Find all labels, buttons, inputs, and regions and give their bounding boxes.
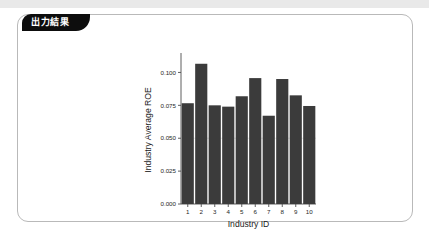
bar-chart: 0.0000.0250.0500.0750.10012345678910Indu… bbox=[138, 45, 338, 230]
x-axis-tick-label: 9 bbox=[294, 208, 298, 215]
x-axis-tick-label: 1 bbox=[186, 208, 190, 215]
y-axis-tick-label: 0.075 bbox=[161, 102, 177, 109]
bar bbox=[263, 116, 275, 204]
top-gray-band bbox=[0, 0, 429, 8]
bar bbox=[236, 96, 248, 204]
x-axis-title: Industry ID bbox=[228, 219, 270, 229]
bar bbox=[303, 106, 315, 204]
panel-tab-output-result[interactable]: 出力結果 bbox=[22, 14, 90, 31]
chart-canvas: 0.0000.0250.0500.0750.10012345678910Indu… bbox=[138, 45, 338, 230]
x-axis-tick-label: 4 bbox=[227, 208, 231, 215]
y-axis-title: Industry Average ROE bbox=[143, 87, 153, 173]
y-axis-tick-label: 0.050 bbox=[161, 134, 177, 141]
bar bbox=[182, 103, 194, 204]
output-result-card: 0.0000.0250.0500.0750.10012345678910Indu… bbox=[17, 14, 413, 222]
bar bbox=[290, 95, 302, 204]
bar bbox=[249, 78, 261, 204]
y-axis-tick-label: 0.000 bbox=[161, 200, 177, 207]
screenshot-root: 0.0000.0250.0500.0750.10012345678910Indu… bbox=[0, 0, 429, 235]
x-axis-tick-label: 2 bbox=[200, 208, 204, 215]
y-axis-tick-label: 0.100 bbox=[161, 69, 177, 76]
bar bbox=[209, 105, 221, 204]
bar bbox=[276, 79, 288, 204]
x-axis-tick-label: 6 bbox=[254, 208, 258, 215]
y-axis-tick-label: 0.025 bbox=[161, 167, 177, 174]
bar bbox=[195, 64, 207, 204]
panel-tab-label: 出力結果 bbox=[22, 18, 69, 27]
x-axis-tick-label: 5 bbox=[240, 208, 244, 215]
x-axis-tick-label: 8 bbox=[281, 208, 285, 215]
x-axis-tick-label: 10 bbox=[306, 208, 313, 215]
x-axis-tick-label: 7 bbox=[267, 208, 271, 215]
bar bbox=[222, 107, 234, 204]
x-axis-tick-label: 3 bbox=[213, 208, 217, 215]
